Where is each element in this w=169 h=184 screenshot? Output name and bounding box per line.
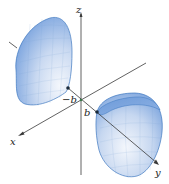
vertex-neg-b-point (66, 86, 70, 90)
x-axis-label: x (10, 136, 16, 147)
vertex-b-point (95, 110, 99, 114)
y-axis-label: y (154, 167, 161, 178)
b-label: b (84, 107, 90, 118)
x-axis-arrow-icon (18, 132, 25, 137)
hyperboloid-figure: z x y −b b (0, 0, 169, 184)
sheet-negative (9, 17, 72, 106)
origin-point (80, 99, 82, 101)
z-axis-label: z (75, 4, 82, 15)
sheet-positive (96, 93, 162, 178)
x-axis (20, 100, 81, 135)
neg-b-label: −b (62, 94, 77, 105)
